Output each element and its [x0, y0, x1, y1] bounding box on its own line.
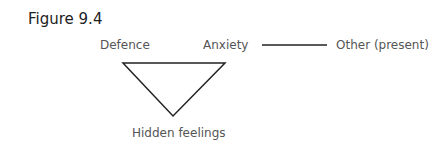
diagram-lines [0, 0, 444, 149]
triangle-of-conflict [123, 63, 225, 116]
